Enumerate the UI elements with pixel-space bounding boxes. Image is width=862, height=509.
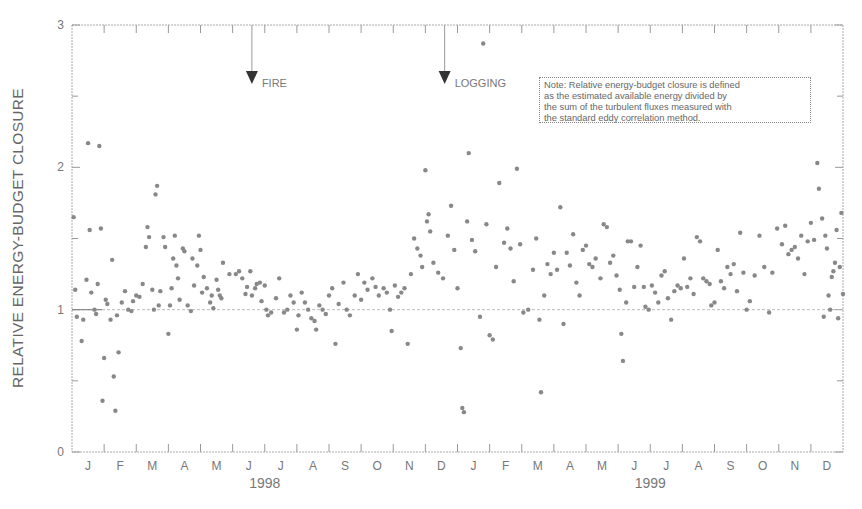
data-point: [839, 211, 843, 215]
data-point: [303, 300, 307, 304]
data-point: [542, 293, 546, 297]
data-point: [497, 181, 501, 185]
data-point: [198, 248, 202, 252]
month-label: O: [373, 459, 382, 473]
data-point: [577, 293, 581, 297]
y-tick-label: 3: [57, 18, 64, 32]
data-point: [173, 233, 177, 237]
data-point: [341, 280, 345, 284]
data-point: [87, 228, 91, 232]
data-point: [618, 288, 622, 292]
data-point: [635, 265, 639, 269]
data-point: [389, 329, 393, 333]
data-point: [722, 286, 726, 290]
data-point: [402, 286, 406, 290]
data-point: [81, 317, 85, 321]
data-point: [728, 272, 732, 276]
data-point: [277, 276, 281, 280]
data-point: [312, 319, 316, 323]
data-point: [825, 246, 829, 250]
data-point: [84, 278, 88, 282]
data-point: [822, 315, 826, 319]
month-label: F: [502, 459, 509, 473]
data-point: [97, 144, 101, 148]
data-point: [129, 309, 133, 313]
month-label: M: [212, 459, 222, 473]
annotation-label: LOGGING: [455, 77, 506, 89]
month-label: J: [471, 459, 477, 473]
data-point: [826, 293, 830, 297]
data-point: [770, 270, 774, 274]
data-point: [377, 293, 381, 297]
data-point: [590, 265, 594, 269]
data-point: [112, 374, 116, 378]
data-point: [79, 339, 83, 343]
month-label: D: [437, 459, 446, 473]
data-point: [653, 290, 657, 294]
data-point: [752, 273, 756, 277]
event-annotations: FIRELOGGING: [246, 25, 506, 89]
data-point: [462, 410, 466, 414]
data-point: [317, 303, 321, 307]
data-point: [113, 409, 117, 413]
data-point: [344, 307, 348, 311]
data-point: [110, 258, 114, 262]
data-point: [253, 286, 257, 290]
month-label: J: [278, 459, 284, 473]
month-label: F: [117, 459, 124, 473]
data-point: [812, 238, 816, 242]
data-point: [515, 167, 519, 171]
data-point: [669, 317, 673, 321]
data-point: [558, 205, 562, 209]
data-point: [611, 253, 615, 257]
data-point: [646, 307, 650, 311]
data-point: [682, 256, 686, 260]
data-point: [629, 239, 633, 243]
data-point: [73, 288, 77, 292]
note-line: the sum of the turbulent fluxes measured…: [544, 102, 806, 113]
data-point: [793, 245, 797, 249]
data-point: [306, 307, 310, 311]
data-point: [168, 303, 172, 307]
data-point: [512, 279, 516, 283]
year-label: 1998: [249, 475, 280, 491]
data-point: [137, 295, 141, 299]
data-point: [428, 229, 432, 233]
month-label: A: [566, 459, 574, 473]
data-point: [333, 342, 337, 346]
data-point: [211, 306, 215, 310]
data-point: [296, 313, 300, 317]
data-point: [775, 226, 779, 230]
data-point: [89, 290, 93, 294]
data-point: [719, 279, 723, 283]
data-point: [214, 278, 218, 282]
annotation-label: FIRE: [262, 77, 287, 89]
data-point: [534, 236, 538, 240]
data-point: [221, 260, 225, 264]
data-point: [396, 295, 400, 299]
data-point: [809, 221, 813, 225]
data-point: [537, 317, 541, 321]
data-point: [521, 310, 525, 314]
data-point: [431, 260, 435, 264]
data-point: [571, 232, 575, 236]
data-point: [353, 293, 357, 297]
month-label: A: [180, 459, 188, 473]
month-label: S: [341, 459, 349, 473]
data-point: [200, 290, 204, 294]
data-point: [436, 270, 440, 274]
data-point: [470, 238, 474, 242]
data-point: [174, 263, 178, 267]
data-point: [264, 307, 268, 311]
data-point: [299, 290, 303, 294]
data-point: [805, 239, 809, 243]
data-point: [828, 307, 832, 311]
month-label: D: [823, 459, 832, 473]
data-point: [274, 296, 278, 300]
data-point: [362, 280, 366, 284]
data-point: [71, 215, 75, 219]
data-point: [738, 231, 742, 235]
data-point: [744, 307, 748, 311]
data-point: [581, 248, 585, 252]
data-point: [478, 315, 482, 319]
